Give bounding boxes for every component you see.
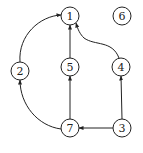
node-label: 2 [17, 65, 24, 78]
node-label: 5 [67, 61, 74, 74]
node-label: 6 [119, 10, 126, 23]
nodes: 1 6 2 5 4 7 3 [11, 7, 131, 137]
edge-7-to-2 [20, 80, 61, 129]
node-label: 7 [67, 122, 74, 135]
node-4: 4 [112, 58, 130, 76]
edge-3-to-4 [121, 76, 122, 119]
node-label: 1 [67, 10, 74, 23]
node-3: 3 [113, 119, 131, 137]
node-label: 4 [118, 61, 125, 74]
node-5: 5 [61, 58, 79, 76]
node-label: 3 [119, 122, 126, 135]
node-2: 2 [11, 62, 29, 80]
node-7: 7 [61, 119, 79, 137]
edge-4-to-1 [76, 23, 119, 58]
node-6: 6 [113, 7, 131, 25]
node-1: 1 [61, 7, 79, 25]
directed-graph: 1 6 2 5 4 7 3 [0, 0, 143, 153]
edge-2-to-1 [20, 15, 61, 62]
